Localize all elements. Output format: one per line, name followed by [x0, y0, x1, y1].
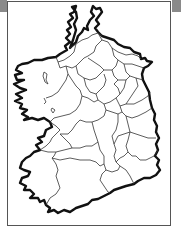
coastline: [14, 6, 160, 213]
ireland-map: [0, 0, 181, 232]
